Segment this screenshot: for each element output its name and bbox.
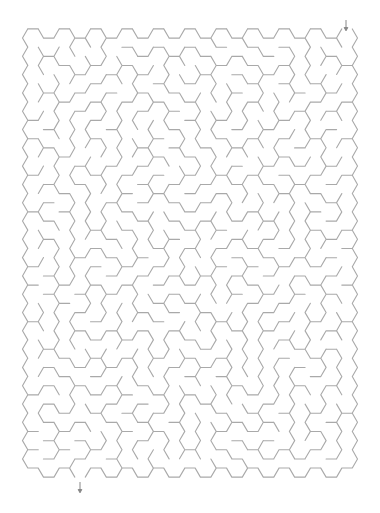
maze-wall-path bbox=[23, 29, 358, 477]
maze-walls bbox=[23, 29, 358, 477]
exit-arrow-icon bbox=[78, 482, 82, 493]
entrance-arrow-icon bbox=[344, 20, 348, 31]
hex-maze-board bbox=[0, 0, 380, 513]
